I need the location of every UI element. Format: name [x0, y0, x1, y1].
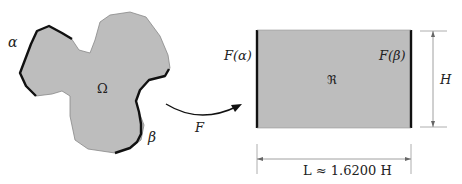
mapping-arrow	[166, 104, 238, 115]
mapping-label: F	[194, 120, 205, 135]
rectangle-label: ℜ	[327, 73, 337, 87]
omega-label: Ω	[97, 81, 108, 96]
beta-label: β	[147, 129, 156, 145]
f-beta-label: F(β)	[378, 48, 406, 63]
alpha-label: α	[8, 34, 18, 50]
length-label: L ≈ 1.6200 H	[303, 163, 392, 178]
height-label: H	[439, 72, 452, 87]
f-alpha-label: F(α)	[223, 48, 252, 63]
conformal-map-figure: α β Ω F ℜ F(α) F(β) H L ≈ 1.6200 H	[0, 0, 462, 184]
